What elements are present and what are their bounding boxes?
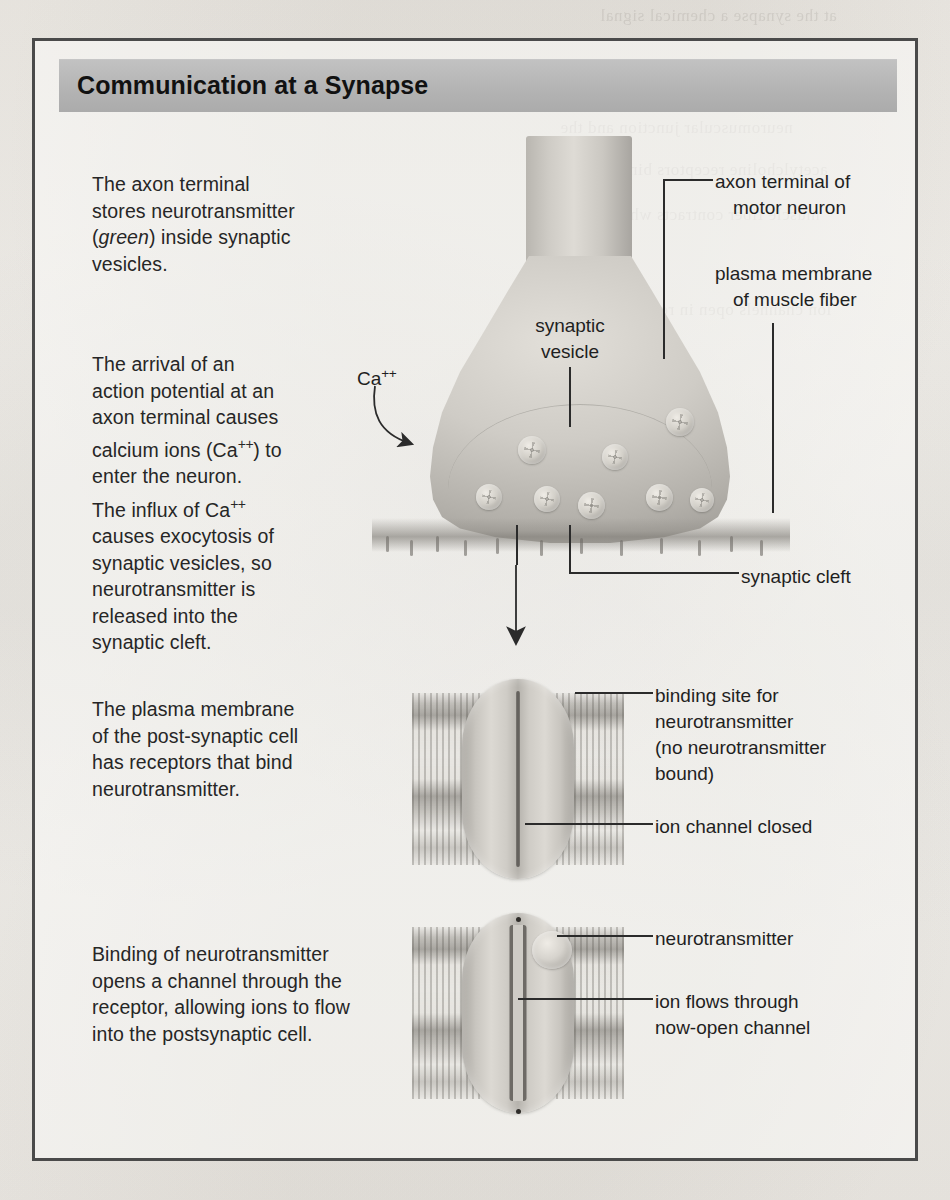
leader-ion-channel-closed <box>525 823 653 825</box>
synaptic-vesicle-icon <box>666 408 694 436</box>
synaptic-vesicle-icon <box>518 436 546 464</box>
synaptic-vesicle-icon <box>476 484 502 510</box>
calcium-influx-arrow <box>374 386 409 443</box>
receptor-protein <box>462 679 574 879</box>
leader-axon-terminal <box>663 179 713 181</box>
figure-title-bar: Communication at a Synapse <box>59 59 897 112</box>
ion-dot-icon <box>516 917 521 922</box>
callout-axon-terminal: axon terminal of motor neuron <box>715 169 905 221</box>
figure-frame: Communication at a Synapse The axon term… <box>32 38 918 1161</box>
figure-title: Communication at a Synapse <box>77 71 428 100</box>
callout-synaptic-vesicle: synaptic vesicle <box>505 313 635 365</box>
leader-binding-site <box>575 692 653 694</box>
receptor-closed-illustration <box>412 679 624 879</box>
synaptic-vesicle-icon <box>534 486 560 512</box>
leader-synaptic-cleft-vertical <box>569 525 571 573</box>
callout-ion-flows: ion flows through now-open channel <box>655 989 875 1041</box>
step-text-exocytosis: The influx of Ca++ causes exocytosis of … <box>92 491 352 656</box>
leader-synaptic-vesicle <box>569 367 571 427</box>
step-text-channel-opens: Binding of neurotransmitter opens a chan… <box>92 941 402 1047</box>
ion-channel-closed-icon <box>516 691 520 867</box>
green-emphasis: green <box>99 226 149 248</box>
bleed-text: at the synapse a chemical signal <box>600 6 837 26</box>
ion-dot-icon <box>516 1109 521 1114</box>
ion-channel-open-icon <box>510 925 527 1101</box>
receptor-open-illustration <box>412 913 624 1113</box>
step-text-action-potential: The arrival of an action potential at an… <box>92 351 352 489</box>
leader-synaptic-cleft <box>569 572 739 574</box>
callout-binding-site: binding site for neurotransmitter (no ne… <box>655 683 885 787</box>
leader-ion-flows <box>518 998 653 1000</box>
synaptic-vesicle-icon <box>646 484 673 511</box>
leader-neurotransmitter <box>557 935 653 937</box>
leader-axon-terminal-vertical <box>663 179 665 359</box>
neurotransmitter-molecule-icon <box>532 931 572 969</box>
synaptic-vesicle-icon <box>690 488 714 512</box>
leader-plasma-membrane <box>772 323 774 513</box>
callout-plasma-membrane: plasma membrane of muscle fiber <box>715 261 915 313</box>
synaptic-vesicle-icon <box>578 492 605 519</box>
callout-neurotransmitter: neurotransmitter <box>655 926 793 952</box>
step-text-receptors: The plasma membrane of the post-synaptic… <box>92 696 377 802</box>
leader-exocytosis-tick <box>516 525 518 565</box>
callout-ion-channel-closed: ion channel closed <box>655 814 812 840</box>
callout-calcium-ion: Ca++ <box>357 361 396 392</box>
callout-synaptic-cleft: synaptic cleft <box>741 564 851 590</box>
step-text-stores: The axon terminal stores neurotransmitte… <box>92 171 342 277</box>
synaptic-vesicle-icon <box>602 444 628 470</box>
